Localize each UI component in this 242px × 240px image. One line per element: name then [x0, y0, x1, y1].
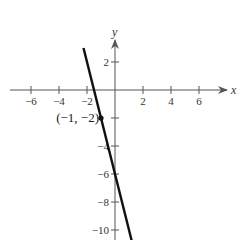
ticks: −6−4−22462−4−6−8−10	[25, 56, 202, 236]
point-label: (−1, −2)	[56, 110, 99, 125]
x-tick-label: 6	[196, 95, 202, 107]
y-tick-label: −8	[97, 196, 109, 208]
x-tick-label: −2	[81, 95, 93, 107]
x-tick-label: −4	[53, 95, 65, 107]
y-tick-label: −10	[92, 224, 110, 236]
y-axis-label: y	[111, 25, 118, 39]
x-tick-label: 2	[140, 95, 146, 107]
x-tick-label: −6	[25, 95, 37, 107]
data-line	[84, 48, 132, 240]
annotations: (−1, −2)	[56, 110, 103, 125]
series	[84, 48, 132, 240]
y-tick-label: −6	[97, 168, 109, 180]
x-tick-label: 4	[168, 95, 174, 107]
data-point	[98, 115, 103, 120]
x-axis-label: x	[230, 83, 237, 97]
y-tick-label: 2	[104, 56, 110, 68]
chart: xy −6−4−22462−4−6−8−10 (−1, −2)	[0, 0, 242, 240]
